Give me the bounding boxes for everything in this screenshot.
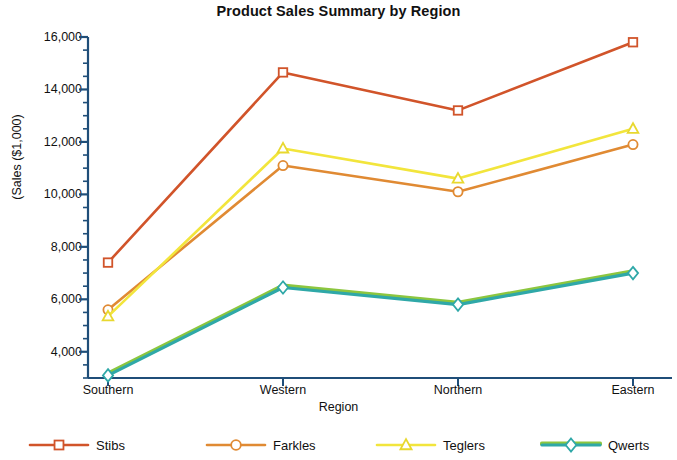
x-tick-label: Western	[260, 383, 306, 397]
series-qwerts	[103, 267, 638, 382]
data-point-marker	[628, 140, 637, 149]
x-tick-label: Eastern	[611, 383, 654, 397]
x-tick-label: Southern	[83, 383, 134, 397]
series-teglers	[103, 123, 639, 320]
data-point-marker	[231, 440, 241, 450]
legend-item-stibs[interactable]: Stibs	[28, 432, 125, 458]
line-chart: Product Sales Summary by Region (Sales (…	[0, 0, 677, 460]
data-point-marker	[453, 187, 462, 196]
data-point-marker	[279, 68, 288, 77]
data-point-marker	[566, 438, 577, 451]
x-tick-label: Northern	[434, 383, 483, 397]
legend-item-teglers[interactable]: Teglers	[375, 432, 485, 458]
data-point-marker	[278, 143, 289, 153]
legend-label: Qwerts	[608, 438, 649, 453]
legend-item-farkles[interactable]: Farkles	[205, 432, 316, 458]
y-axis-ticks	[79, 37, 88, 378]
data-point-marker	[454, 106, 463, 115]
legend-label: Farkles	[273, 438, 316, 453]
x-axis-ticks	[108, 378, 633, 386]
data-point-marker	[628, 123, 639, 133]
data-point-marker	[104, 258, 113, 267]
legend-swatch-triangle-icon	[375, 436, 437, 454]
legend-swatch-diamond-icon	[540, 436, 602, 454]
legend-label: Stibs	[96, 438, 125, 453]
data-point-marker	[278, 161, 287, 170]
series-stibs	[104, 38, 638, 267]
legend-swatch-circle-icon	[205, 436, 267, 454]
x-axis-title: Region	[0, 400, 677, 414]
data-point-marker	[628, 267, 638, 279]
axis-lines	[88, 37, 672, 378]
data-point-marker	[278, 281, 288, 293]
series-line	[108, 273, 633, 375]
legend-item-qwerts[interactable]: Qwerts	[540, 432, 649, 458]
chart-legend: StibsFarklesTeglersQwerts	[0, 432, 677, 460]
data-point-marker	[629, 38, 638, 47]
data-point-marker	[55, 441, 64, 450]
legend-swatch-square-icon	[28, 436, 90, 454]
legend-label: Teglers	[443, 438, 485, 453]
